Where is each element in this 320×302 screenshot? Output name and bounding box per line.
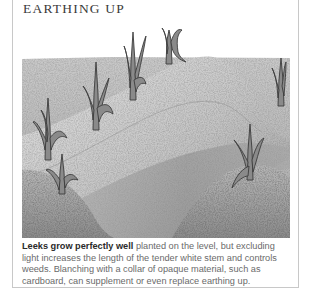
earthing-up-illustration bbox=[22, 28, 290, 238]
caption-lead: Leeks grow perfectly well bbox=[22, 241, 133, 251]
caption-text: Leeks grow perfectly well planted on the… bbox=[22, 241, 294, 288]
leek-ridge-drawing bbox=[22, 28, 290, 238]
section-heading: EARTHING UP bbox=[23, 1, 125, 17]
